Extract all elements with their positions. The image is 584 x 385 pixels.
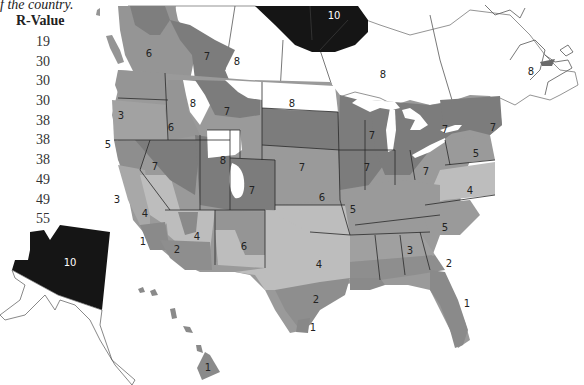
vancouver-island bbox=[106, 35, 124, 64]
zone-label: 7 bbox=[152, 161, 158, 172]
zone-label: 1 bbox=[464, 298, 470, 309]
zone-label: 7 bbox=[423, 166, 429, 177]
zone-7-south-dakota bbox=[262, 108, 340, 150]
zone-label: 3 bbox=[118, 110, 124, 121]
zone-label: 2 bbox=[446, 258, 452, 269]
zone-label: 5 bbox=[473, 148, 479, 159]
zone-label: 8 bbox=[220, 155, 226, 166]
zone-label: 2 bbox=[174, 244, 180, 255]
climate-zone-map: 10 6 7 8 8 8 8 7 8 3 6 5 7 8 7 7 7 7 7 7… bbox=[0, 0, 584, 385]
zone-2-arizona-south bbox=[160, 240, 212, 270]
zone-label: 3 bbox=[407, 245, 413, 256]
zone-label: 7 bbox=[369, 130, 375, 141]
zone-label: 4 bbox=[316, 259, 322, 270]
zone-label: 6 bbox=[241, 241, 247, 252]
zone-label: 1 bbox=[310, 322, 316, 333]
hawaii-island-4 bbox=[183, 326, 193, 333]
zone-label: 1 bbox=[140, 236, 146, 247]
zone-1-texas-tip bbox=[296, 318, 310, 333]
zone-label: 5 bbox=[442, 222, 448, 233]
zone-8-north-dakota bbox=[262, 82, 338, 112]
zone-label: 7 bbox=[442, 124, 448, 135]
zone-label: 3 bbox=[114, 194, 120, 205]
zone-label: 4 bbox=[194, 231, 200, 242]
zone-label: 6 bbox=[319, 192, 325, 203]
zone-label: 7 bbox=[249, 185, 255, 196]
small-island bbox=[96, 8, 100, 16]
zone-label: 8 bbox=[289, 98, 295, 109]
zone-label: 7 bbox=[204, 51, 210, 62]
hawaii-island-2 bbox=[150, 289, 158, 296]
zone-label: 8 bbox=[190, 98, 196, 109]
zone-label: 7 bbox=[224, 106, 230, 117]
zone-label: 8 bbox=[380, 69, 386, 80]
zone-label: 5 bbox=[350, 204, 356, 215]
hawaii-island-3 bbox=[170, 308, 177, 319]
zone-label: 5 bbox=[105, 139, 111, 150]
zone-label: 6 bbox=[168, 122, 174, 133]
hawaii-island-5 bbox=[196, 345, 203, 353]
zone-label: 2 bbox=[313, 294, 319, 305]
zone-label: 8 bbox=[234, 56, 240, 67]
zone-6-kansas bbox=[275, 160, 345, 205]
zone-label: 6 bbox=[146, 48, 152, 59]
zone-label: 7 bbox=[490, 122, 496, 133]
zone-label: 8 bbox=[528, 66, 534, 77]
zone-1-florida bbox=[430, 270, 468, 348]
zone-label: 10 bbox=[328, 10, 341, 21]
zone-label: 10 bbox=[64, 257, 77, 268]
zone-5-carolinas bbox=[420, 200, 480, 235]
zone-6-washington bbox=[115, 70, 168, 100]
zone-label: 7 bbox=[299, 162, 305, 173]
zone-label: 1 bbox=[205, 362, 211, 373]
zone-label: 4 bbox=[467, 185, 473, 196]
coastline bbox=[560, 45, 573, 56]
zone-label: 7 bbox=[364, 162, 370, 173]
zone-label: 4 bbox=[142, 208, 148, 219]
hawaii-island-1 bbox=[138, 287, 145, 293]
